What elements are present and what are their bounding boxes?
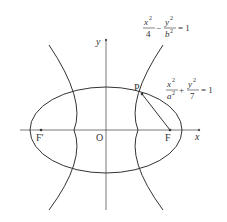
point-f-prime-label: F′ (36, 132, 44, 143)
point-p (141, 93, 144, 96)
svg-text:x: x (143, 17, 148, 27)
y-axis-label: y (95, 36, 101, 47)
svg-text:y: y (164, 17, 169, 27)
hyperbola-right-branch (135, 45, 163, 210)
point-f-label: F (165, 132, 171, 143)
origin-label: O (96, 132, 103, 143)
svg-text:= 1: = 1 (178, 23, 190, 33)
svg-text:2: 2 (170, 28, 173, 34)
conic-diagram: x y O F F′ P x 2 4 − y 2 b 2 = 1 x 2 a 2… (0, 0, 227, 222)
svg-text:4: 4 (146, 29, 151, 39)
x-axis-label: x (194, 131, 200, 142)
point-p-label: P (134, 82, 140, 93)
svg-text:x: x (166, 79, 171, 89)
segment-pf (142, 94, 170, 130)
ellipse-equation: x 2 a 2 + y 2 7 = 1 (166, 77, 213, 101)
point-f-prime (40, 129, 43, 132)
point-f (169, 129, 172, 132)
svg-text:+: + (179, 85, 184, 95)
svg-text:= 1: = 1 (201, 85, 213, 95)
svg-text:y: y (187, 79, 192, 89)
svg-text:2: 2 (172, 77, 175, 83)
svg-text:2: 2 (149, 15, 152, 21)
y-axis-arrow (105, 39, 107, 41)
svg-text:2: 2 (172, 90, 175, 96)
hyperbola-equation: x 2 4 − y 2 b 2 = 1 (143, 15, 190, 39)
svg-text:−: − (156, 23, 161, 33)
svg-text:7: 7 (190, 91, 195, 101)
hyperbola-left-branch (49, 45, 77, 210)
svg-text:2: 2 (170, 15, 173, 21)
svg-text:2: 2 (193, 77, 196, 83)
